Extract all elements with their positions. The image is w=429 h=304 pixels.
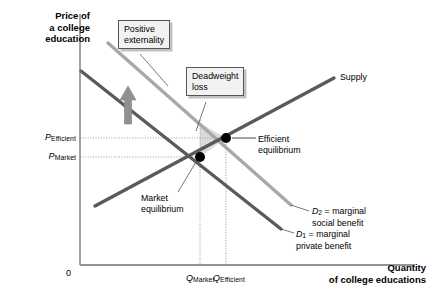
leader-line-d1 [281,229,294,233]
x-tick-q-efficient-sub: Efficient [220,276,245,283]
y-tick-p-efficient: PEfficient [0,132,76,142]
x-axis-title: Quantity of college educations [320,262,426,285]
y-tick-p-market-sub: Market [55,154,76,161]
leader-line-positive-externality [140,54,168,86]
market-equilibrium-label: Market equilibrium [141,193,184,214]
leader-line-d2 [291,205,309,211]
callout-positive-externality: Positive externality [118,20,170,49]
market-equilibrium-point [195,152,205,162]
x-tick-q-efficient: QEfficient [213,273,245,283]
x-tick-q-market: QMarket [186,273,214,283]
leader-line-market-equilibrium [178,162,196,192]
supply-curve-label: Supply [340,72,367,83]
callout-deadweight-loss: Deadweight loss [186,67,244,96]
y-tick-p-efficient-sub: Efficient [51,135,76,142]
origin-label: 0 [66,268,71,278]
demand-curve-d2-label: D2 = marginal social benefit [312,206,366,229]
demand-curve-d1-label: D1 = marginal private benefit [296,229,351,252]
x-tick-q-efficient-symbol: Q [213,273,220,283]
x-tick-q-market-sub: Market [193,276,214,283]
efficient-equilibrium-point [221,133,231,143]
externality-chart-figure: Price of a college education Quantity of… [0,0,429,304]
y-axis-title: Price of a college education [24,10,90,45]
x-tick-q-market-symbol: Q [186,273,193,283]
efficient-equilibrium-label: Efficient equilibrium [258,134,301,155]
y-tick-p-market: PMarket [0,151,76,161]
